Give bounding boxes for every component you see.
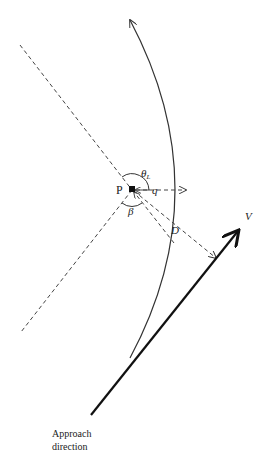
velocity-label: V [245,210,253,222]
dashed-line-upper-left [20,45,132,190]
approach-label-line1: Approach [52,428,91,439]
theta-label: θL [141,167,150,181]
point-p-label: P [116,183,123,197]
dashed-line-lower-left [21,190,132,332]
point-p-marker [129,186,135,192]
distance-label: D [170,224,179,236]
q-label: q [152,184,158,196]
velocity-arrow [91,231,238,415]
approach-label-line2: direction [52,441,88,452]
beta-label: β [127,205,134,217]
diagram-canvas: P θL q β D V Approach direction [0,0,264,459]
dashed-line-approach-continuation [134,192,174,243]
